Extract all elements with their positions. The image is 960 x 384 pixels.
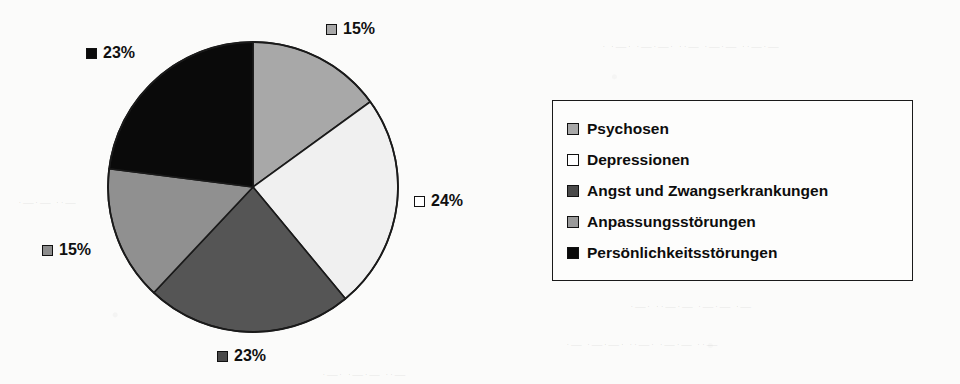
- pie-slice-value-label: 23%: [86, 44, 135, 62]
- pie-slice-value-label: 24%: [414, 192, 463, 210]
- slice-label-swatch-icon: [86, 48, 97, 59]
- legend-swatch-icon: [567, 185, 579, 197]
- slice-label-swatch-icon: [414, 196, 425, 207]
- pie-slice-value-label: 15%: [326, 20, 375, 38]
- pie-chart-figure: 15%24%23%15%23% Psychosen Depressionen A…: [0, 0, 960, 384]
- slice-label-text: 24%: [431, 192, 463, 210]
- legend-swatch-icon: [567, 154, 579, 166]
- legend-swatch-icon: [567, 247, 579, 259]
- legend-item[interactable]: Depressionen: [567, 144, 912, 175]
- legend-item-label: Psychosen: [587, 120, 669, 138]
- legend-swatch-icon: [567, 216, 579, 228]
- slice-label-text: 15%: [59, 241, 91, 259]
- slice-label-swatch-icon: [217, 351, 228, 362]
- slice-label-swatch-icon: [42, 245, 53, 256]
- legend-item-label: Depressionen: [587, 151, 690, 169]
- slice-label-text: 23%: [234, 347, 266, 365]
- legend-item-label: Angst und Zwangserkrankungen: [587, 182, 828, 200]
- legend-item-label: Anpassungsstörungen: [587, 213, 756, 231]
- legend-item[interactable]: Anpassungsstörungen: [567, 206, 912, 237]
- legend-item[interactable]: Angst und Zwangserkrankungen: [567, 175, 912, 206]
- pie-slice-value-label: 15%: [42, 241, 91, 259]
- legend-item-label: Persönlichkeitsstörungen: [587, 244, 777, 262]
- pie-slice[interactable]: [109, 42, 253, 187]
- legend-item[interactable]: Persönlichkeitsstörungen: [567, 237, 912, 268]
- pie-slice-group: [108, 42, 398, 332]
- legend-swatch-icon: [567, 123, 579, 135]
- slice-label-text: 15%: [343, 20, 375, 38]
- pie-slice-value-label: 23%: [217, 347, 266, 365]
- slice-label-swatch-icon: [326, 24, 337, 35]
- chart-legend: Psychosen Depressionen Angst und Zwangse…: [552, 100, 913, 281]
- slice-label-text: 23%: [103, 44, 135, 62]
- legend-item[interactable]: Psychosen: [567, 113, 912, 144]
